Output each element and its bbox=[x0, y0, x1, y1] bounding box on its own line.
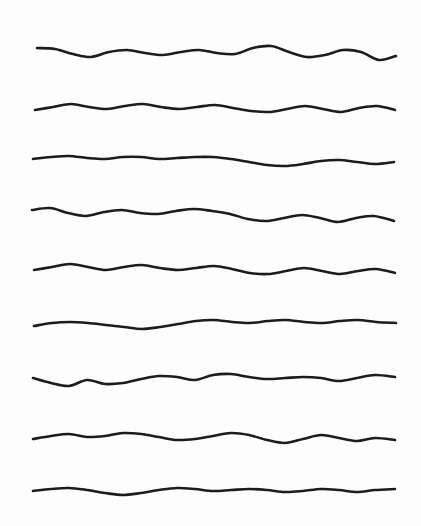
canvas-background bbox=[0, 0, 421, 526]
wavy-lines-svg bbox=[0, 0, 421, 526]
drawing-canvas bbox=[0, 0, 421, 526]
